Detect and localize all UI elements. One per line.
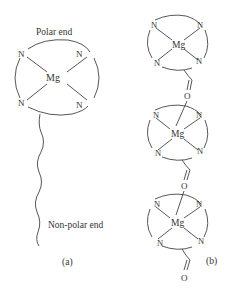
oxygen-label: O bbox=[184, 91, 191, 101]
nitrogen-label: N bbox=[197, 20, 203, 30]
ring-arc-right bbox=[204, 209, 208, 237]
nitrogen-label: N bbox=[18, 98, 25, 108]
phytol-tail bbox=[35, 114, 43, 246]
carbonyl-chain bbox=[184, 70, 192, 80]
ring-arc-right bbox=[204, 120, 208, 148]
magnesium-label: Mg bbox=[171, 129, 184, 139]
ring-arc-top bbox=[155, 105, 201, 115]
nitrogen-label: N bbox=[76, 100, 83, 110]
ring-arc-right bbox=[204, 30, 208, 58]
bond-line bbox=[27, 84, 47, 100]
nitrogen-label: N bbox=[153, 110, 159, 120]
nitrogen-label: N bbox=[157, 238, 163, 248]
panel-a-label: (a) bbox=[62, 257, 73, 268]
nitrogen-label: N bbox=[196, 110, 202, 120]
magnesium-label: Mg bbox=[171, 218, 184, 228]
ring-arc-top bbox=[155, 194, 201, 204]
oxygen-label: O bbox=[181, 273, 188, 283]
chlorophyll-unit: N N N N Mg O bbox=[147, 101, 207, 191]
magnesium-label: Mg bbox=[172, 40, 185, 50]
chlorophyll-unit: N N N N Mg O bbox=[147, 15, 207, 101]
polar-end-label: Polar end bbox=[36, 27, 72, 37]
bond-line bbox=[27, 57, 47, 72]
nitrogen-label: N bbox=[198, 236, 204, 246]
double-bond bbox=[190, 80, 192, 90]
oxygen-label: O bbox=[181, 181, 188, 191]
ring-arc-bottom bbox=[162, 67, 192, 70]
double-bond bbox=[187, 260, 190, 270]
ring-arc-left bbox=[15, 58, 20, 98]
ring-arc-top bbox=[155, 15, 201, 25]
double-bond bbox=[184, 260, 187, 270]
ring-arc-left bbox=[147, 30, 152, 58]
double-bond bbox=[187, 170, 190, 180]
carbonyl-chain bbox=[182, 160, 190, 170]
chlorophyll-diagram: Polar end N N N N Mg Non-polar end (a) bbox=[0, 0, 228, 295]
magnesium-label: Mg bbox=[46, 72, 60, 83]
nitrogen-label: N bbox=[197, 146, 203, 156]
panel-b: N N N N Mg O N N N N Mg bbox=[147, 15, 217, 283]
ring-arc-bottom bbox=[162, 157, 192, 160]
double-bond bbox=[187, 80, 189, 90]
chlorophyll-unit: N N N N Mg O bbox=[147, 191, 207, 283]
ring-arc-left bbox=[147, 209, 152, 237]
bond-line bbox=[67, 84, 87, 100]
nitrogen-label: N bbox=[196, 199, 202, 209]
nitrogen-label: N bbox=[154, 58, 160, 68]
nitrogen-label: N bbox=[18, 49, 25, 59]
nitrogen-label: N bbox=[76, 49, 83, 59]
double-bond bbox=[184, 170, 187, 180]
panel-a: Polar end N N N N Mg Non-polar end (a) bbox=[15, 27, 103, 268]
ring-arc-left bbox=[147, 120, 152, 148]
bond-line bbox=[184, 139, 198, 150]
bond-line bbox=[67, 57, 87, 72]
nonpolar-end-label: Non-polar end bbox=[48, 220, 103, 230]
panel-b-label: (b) bbox=[206, 256, 217, 267]
nitrogen-label: N bbox=[196, 56, 202, 66]
bond-line bbox=[156, 28, 172, 40]
nitrogen-label: N bbox=[151, 20, 157, 30]
nitrogen-label: N bbox=[155, 148, 161, 158]
nitrogen-label: N bbox=[154, 199, 160, 209]
carbonyl-chain bbox=[182, 249, 190, 260]
bond-line bbox=[184, 228, 198, 239]
ring-arc-bottom bbox=[162, 246, 192, 249]
ring-arc-right bbox=[94, 58, 99, 98]
